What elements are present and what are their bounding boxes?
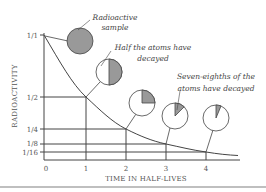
- y-tick-1-2: 1/2: [27, 94, 38, 102]
- x-tick-1: 1: [84, 165, 88, 173]
- x-tick-3: 3: [164, 165, 168, 173]
- callout-seven-line1: Seven-eighths of the: [177, 72, 256, 81]
- y-axis-title: Radioactivity: [11, 64, 19, 127]
- pie-sample: [67, 28, 93, 54]
- connector-sixteenth: [206, 130, 213, 152]
- connector-half: [86, 82, 100, 97]
- pie-quarter: [129, 90, 155, 116]
- callout-half-line2: decayed: [137, 54, 169, 63]
- x-tick-0: 0: [44, 165, 48, 173]
- x-axis-title: Time in half-lives: [105, 175, 187, 183]
- callout-sample-line2: sample: [101, 23, 129, 32]
- pie-eighth: [162, 103, 188, 129]
- decay-diagram: 1/1 1/2 1/4 1/8 1/16 0 1 2 3 4 Time in h…: [0, 0, 266, 192]
- y-tick-1-4: 1/4: [27, 126, 39, 134]
- y-tick-1-16: 1/16: [22, 149, 38, 157]
- callout-sample-line1: Radioactive: [92, 13, 138, 22]
- connector-sample: [45, 36, 68, 41]
- pie-half: [96, 59, 122, 85]
- callout-seven-line2: atoms have decayed: [177, 84, 254, 93]
- x-tick-2: 2: [124, 165, 128, 173]
- pie-sixteenth: [203, 105, 229, 131]
- connector-eighth: [166, 128, 170, 144]
- y-tick-1-1: 1/1: [27, 32, 38, 40]
- connector-quarter: [126, 114, 136, 129]
- callout-half-line1: Half the atoms have: [114, 43, 192, 52]
- x-tick-4: 4: [204, 165, 209, 173]
- y-tick-1-8: 1/8: [27, 140, 38, 148]
